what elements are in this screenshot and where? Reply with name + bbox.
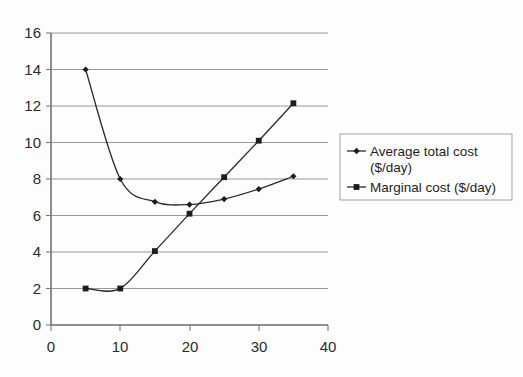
gridlines: [51, 33, 328, 289]
x-tick-label-0: 0: [47, 338, 55, 355]
diamond-marker-icon: [152, 199, 158, 205]
x-tick-label-20: 20: [182, 338, 199, 355]
y-tick-label-16: 16: [24, 24, 41, 41]
y-tick-label-4: 4: [33, 243, 41, 260]
y-tick-label-2: 2: [33, 280, 41, 297]
diamond-marker-icon: [117, 176, 123, 182]
square-marker-icon: [187, 211, 193, 217]
legend-label-average-total-cost-line2: ($/day): [370, 160, 412, 175]
chart-legend[interactable]: Average total cost ($/day) Marginal cost…: [340, 134, 512, 200]
square-marker-icon: [221, 174, 227, 180]
y-tick-label-12: 12: [24, 97, 41, 114]
x-tick-marks: [51, 325, 328, 331]
y-tick-label-14: 14: [24, 61, 41, 78]
series-line-marginal-cost-day: [86, 103, 294, 291]
y-tick-label-0: 0: [33, 316, 41, 333]
y-tick-label-10: 10: [24, 134, 41, 151]
diamond-marker-icon: [186, 201, 192, 207]
square-marker-icon: [290, 100, 296, 106]
x-axis-labels: 0 10 20 30 40: [47, 338, 337, 355]
diamond-marker-icon: [83, 66, 89, 72]
y-axis-labels: 16 14 12 10 8 6 4 2 0: [24, 24, 41, 333]
square-marker-icon: [83, 286, 89, 292]
diamond-marker-icon: [221, 196, 227, 202]
legend-label-marginal-cost-line1: Marginal cost ($/day): [370, 180, 496, 195]
square-marker-icon: [152, 248, 158, 254]
square-marker-icon: [256, 138, 262, 144]
x-tick-label-40: 40: [320, 338, 337, 355]
square-marker-icon: [354, 184, 360, 190]
line-chart: 16 14 12 10 8 6 4 2 0 0 10 20 30 40: [0, 0, 523, 377]
diamond-marker-icon: [290, 173, 296, 179]
series-average-total-cost-day: [83, 66, 297, 207]
diamond-marker-icon: [256, 186, 262, 192]
y-tick-label-8: 8: [33, 170, 41, 187]
x-tick-label-30: 30: [251, 338, 268, 355]
legend-entry-marginal-cost[interactable]: Marginal cost ($/day): [347, 180, 496, 195]
x-tick-label-10: 10: [112, 338, 129, 355]
series-marginal-cost-day: [83, 100, 297, 291]
square-marker-icon: [117, 286, 123, 292]
y-tick-label-6: 6: [33, 207, 41, 224]
legend-label-average-total-cost-line1: Average total cost: [370, 144, 478, 159]
chart-page: 16 14 12 10 8 6 4 2 0 0 10 20 30 40: [0, 0, 523, 377]
